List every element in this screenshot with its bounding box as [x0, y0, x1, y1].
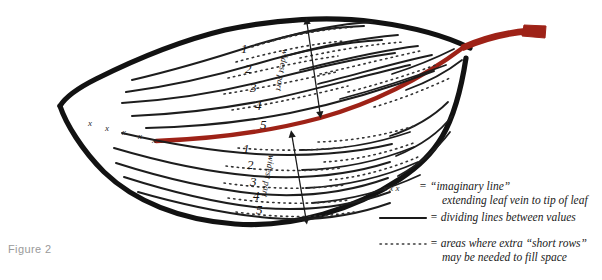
lower-dotted-6	[318, 126, 414, 142]
upper-vein-number-5: 5	[260, 118, 267, 131]
lower-vein-number-2: 2	[247, 158, 254, 171]
red-petiole-tip	[522, 25, 546, 38]
upper-short-b2	[406, 60, 462, 90]
leaf-outline-upper	[60, 19, 470, 106]
legend-row-1-equals: =	[419, 181, 427, 193]
upper-short-a2	[282, 35, 398, 57]
tip-imaginary-mark-2: x	[105, 123, 109, 133]
lower-vein-number-3: 3	[250, 175, 257, 188]
upper-vein-number-4: 4	[255, 99, 262, 112]
figure-2-leaf-diagram: 1 2 3 4 5 1 2 3 4 5 widest part widest p…	[0, 0, 602, 280]
tip-imaginary-mark-4: x	[138, 131, 142, 141]
figure-caption: Figure 2	[8, 243, 52, 255]
lower-vein-number-4: 4	[253, 189, 260, 202]
lower-vein-1	[122, 133, 392, 155]
tip-imaginary-mark-5: x	[152, 135, 156, 145]
lower-vein-number-5: 5	[256, 203, 263, 216]
tip-imaginary-mark-3: x	[122, 127, 126, 137]
legend-row-1-line-2: extending leaf vein to tip of leaf	[442, 195, 588, 207]
legend-row-1-line-1: “imaginary line”	[430, 181, 510, 193]
upper-vein-number-3: 3	[250, 81, 257, 94]
lower-vein-number-1: 1	[243, 142, 250, 155]
legend-samples-group	[380, 218, 426, 244]
legend-row-3-line-1: = areas where extra “short rows”	[430, 238, 587, 250]
upper-vein-number-2: 2	[245, 62, 252, 75]
upper-vein-number-1: 1	[241, 42, 248, 55]
upper-short-a5	[340, 65, 446, 99]
legend-row-3-line-2: may be needed to fill space	[442, 252, 567, 264]
legend-row-2-text: = dividing lines between values	[430, 212, 576, 224]
legend-x-sample: x x x	[383, 184, 399, 193]
upper-short-a1	[268, 22, 372, 42]
tip-imaginary-mark-1: x	[88, 118, 92, 128]
